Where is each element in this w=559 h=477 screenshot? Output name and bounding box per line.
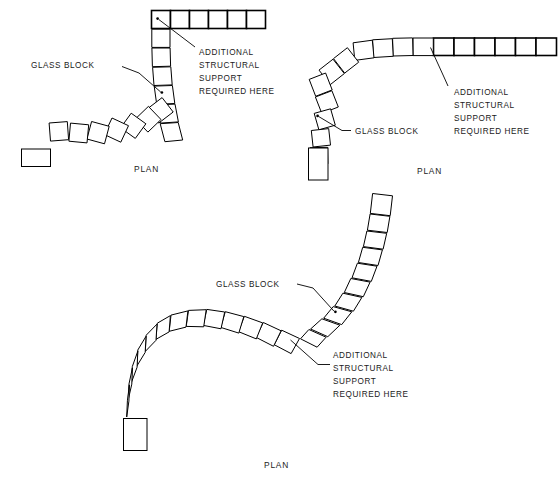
- detail-1-note-line-2: STRUCTURAL: [199, 61, 260, 70]
- detail-1-support-dot: [156, 17, 159, 20]
- detail-3-geometry: [124, 194, 393, 451]
- drawing-canvas: GLASS BLOCK ADDITIONAL STRUCTURAL SUPPOR…: [0, 0, 559, 477]
- detail-3-note-line-1: ADDITIONAL: [333, 351, 388, 360]
- detail-1-tail-end-block: [22, 149, 51, 167]
- detail-1-plan-caption: PLAN: [134, 164, 159, 174]
- detail-2-note-line-2: STRUCTURAL: [454, 101, 515, 110]
- detail-1-note-line-1: ADDITIONAL: [199, 48, 254, 57]
- detail-1-note-line-4: REQUIRED HERE: [199, 87, 274, 96]
- detail-2-glass-block-dot: [316, 115, 319, 118]
- detail-2-note-line-4: REQUIRED HERE: [454, 127, 529, 136]
- detail-1-curved-run: [49, 29, 183, 144]
- detail-2-straight-run: [434, 38, 557, 56]
- detail-1-glass-block-dot: [161, 91, 164, 94]
- detail-1-straight-run: [152, 11, 266, 29]
- detail-3-glass-block-label: GLASS BLOCK: [216, 280, 279, 289]
- detail-2-geometry: [309, 38, 557, 180]
- detail-2-glass-block-label: GLASS BLOCK: [355, 127, 418, 136]
- detail-3-labels: GLASS BLOCK ADDITIONAL STRUCTURAL SUPPOR…: [216, 280, 408, 470]
- detail-2-curved-run: [309, 38, 433, 164]
- detail-2-labels: GLASS BLOCK ADDITIONAL STRUCTURAL SUPPOR…: [355, 88, 529, 176]
- detail-3-plan-caption: PLAN: [264, 460, 289, 470]
- detail-3-note-line-3: SUPPORT: [333, 377, 376, 386]
- detail-2-note-line-1: ADDITIONAL: [454, 88, 509, 97]
- detail-3-glass-block-leader: [297, 284, 334, 311]
- detail-2-tail-end-block: [309, 148, 329, 180]
- detail-3-note-line-4: REQUIRED HERE: [333, 390, 408, 399]
- detail-2-note-line-3: SUPPORT: [454, 114, 497, 123]
- detail-2-plan-caption: PLAN: [417, 166, 442, 176]
- detail-1-glass-block-label: GLASS BLOCK: [31, 61, 94, 70]
- detail-1-note-line-3: SUPPORT: [199, 74, 242, 83]
- detail-3-glass-block-dot: [334, 310, 337, 313]
- detail-3-tail-end-block: [124, 419, 148, 451]
- drawing-sheet: GLASS BLOCK ADDITIONAL STRUCTURAL SUPPOR…: [0, 0, 559, 477]
- detail-3-note-line-2: STRUCTURAL: [333, 364, 394, 373]
